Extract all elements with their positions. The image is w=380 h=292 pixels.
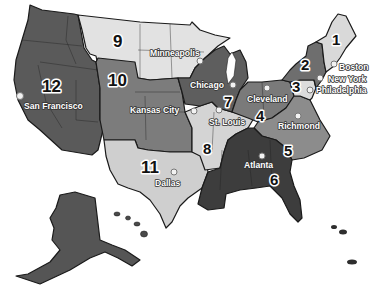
city-label-kansas-city: Kansas City (130, 105, 179, 115)
district-number-2: 2 (301, 56, 309, 73)
city-dot-st-louis (216, 107, 222, 113)
city-label-atlanta: Atlanta (244, 160, 273, 170)
city-dot-minneapolis (197, 58, 203, 64)
city-dot-philadelphia (307, 87, 313, 93)
city-label-dallas: Dallas (155, 178, 181, 188)
city-label-philadelphia: Philadelphia (316, 85, 367, 95)
city-label-st-louis: St. Louis (209, 117, 246, 127)
city-label-san-francisco: San Francisco (24, 101, 83, 111)
district-number-11: 11 (141, 158, 159, 177)
city-label-boston: Boston (339, 62, 369, 72)
caribbean-islands (331, 225, 357, 265)
city-label-minneapolis: Minneapolis (150, 48, 200, 58)
hawaii-islands (114, 212, 148, 237)
district-number-4: 4 (256, 107, 265, 124)
city-dot-san-francisco (17, 93, 24, 100)
district-number-12: 12 (42, 77, 61, 96)
city-label-new-york: New York (328, 74, 367, 84)
federal-reserve-map: 1 2 3 4 5 6 7 8 9 10 11 12 Boston New Yo… (0, 0, 380, 292)
district-number-1: 1 (332, 31, 340, 48)
city-dot-boston (331, 61, 337, 67)
district-number-8: 8 (203, 140, 211, 157)
district-number-7: 7 (224, 93, 232, 110)
district-number-5: 5 (284, 142, 292, 159)
district-number-3: 3 (292, 78, 300, 95)
city-label-richmond: Richmond (278, 121, 320, 131)
district-number-10: 10 (108, 71, 127, 90)
district-number-6: 6 (270, 171, 278, 188)
city-label-cleveland: Cleveland (247, 94, 288, 104)
city-dot-richmond (295, 113, 301, 119)
alaska-region[interactable] (16, 192, 140, 284)
city-dot-dallas (171, 169, 177, 175)
city-dot-atlanta (259, 153, 265, 159)
district-number-9: 9 (113, 32, 122, 51)
city-dot-new-york (317, 75, 323, 81)
city-dot-chicago (230, 82, 236, 88)
city-dot-kansas-city (191, 108, 197, 114)
city-dot-cleveland (264, 85, 270, 91)
city-label-chicago: Chicago (190, 80, 224, 90)
